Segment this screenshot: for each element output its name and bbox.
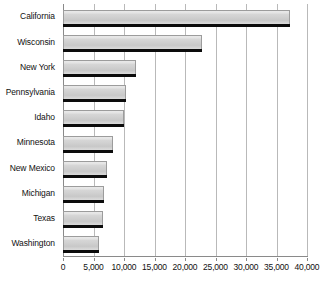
x-tick-mark: [246, 258, 247, 261]
x-tick-label: 30,000: [234, 263, 259, 272]
x-tick-label: 0: [61, 263, 66, 272]
bar[interactable]: [63, 186, 104, 200]
bar-row: [63, 155, 307, 180]
bar[interactable]: [63, 10, 290, 24]
bar-row: [63, 80, 307, 105]
x-axis-ticks: 05,00010,00015,00020,00025,00030,00035,0…: [63, 258, 307, 280]
category-label: New York: [0, 54, 59, 79]
bar-row: [63, 206, 307, 231]
bar[interactable]: [63, 211, 103, 225]
category-label: Wisconsin: [0, 29, 59, 54]
x-tick-label: 5,000: [83, 263, 103, 272]
category-label: Minnesota: [0, 130, 59, 155]
category-label: Idaho: [0, 105, 59, 130]
bar[interactable]: [63, 110, 124, 124]
plot-area: [63, 4, 307, 256]
category-axis: California Wisconsin New York Pennsylvan…: [0, 4, 59, 256]
gridline: [307, 4, 308, 256]
x-tick-mark: [124, 258, 125, 261]
x-axis-line: [63, 256, 308, 257]
x-tick-label: 40,000: [295, 263, 320, 272]
x-tick-mark: [94, 258, 95, 261]
category-label: New Mexico: [0, 155, 59, 180]
bar-row: [63, 4, 307, 29]
bar[interactable]: [63, 35, 202, 49]
x-tick-label: 20,000: [173, 263, 198, 272]
bar[interactable]: [63, 60, 136, 74]
bar-row: [63, 29, 307, 54]
bar-row: [63, 231, 307, 256]
category-label: Washington: [0, 231, 59, 256]
bar[interactable]: [63, 85, 126, 99]
bar-row: [63, 180, 307, 205]
bar-row: [63, 54, 307, 79]
x-tick-mark: [277, 258, 278, 261]
bar[interactable]: [63, 161, 107, 175]
bar[interactable]: [63, 136, 113, 150]
x-tick-label: 10,000: [112, 263, 137, 272]
category-label: California: [0, 4, 59, 29]
x-tick-mark: [307, 258, 308, 261]
x-tick-mark: [185, 258, 186, 261]
x-tick-label: 15,000: [142, 263, 167, 272]
bar-row: [63, 130, 307, 155]
x-tick-label: 35,000: [264, 263, 289, 272]
x-tick-mark: [155, 258, 156, 261]
x-tick-label: 25,000: [203, 263, 228, 272]
category-label: Pennsylvania: [0, 80, 59, 105]
bar-row: [63, 105, 307, 130]
category-label: Michigan: [0, 180, 59, 205]
bar[interactable]: [63, 236, 99, 250]
bar-series: [63, 4, 307, 256]
x-tick-mark: [63, 258, 64, 261]
category-label: Texas: [0, 206, 59, 231]
bar-chart: California Wisconsin New York Pennsylvan…: [0, 0, 327, 284]
x-tick-mark: [216, 258, 217, 261]
